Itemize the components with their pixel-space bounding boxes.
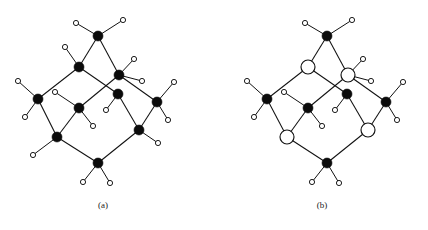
lattice-node-filled (114, 70, 124, 80)
leaf-node-open-circle (107, 180, 112, 185)
lattice-node-filled (93, 31, 103, 41)
leaf-node-open-circle (15, 78, 20, 83)
lattice-edge (98, 36, 119, 75)
panel-a-caption: (a) (83, 200, 123, 210)
lattice-node-filled (33, 94, 43, 104)
figure-root: (a) (b) (0, 0, 428, 230)
lattice-node-filled (74, 103, 84, 113)
leaf-node-open-circle (281, 89, 286, 94)
leaf-node-open-circle (319, 123, 324, 128)
lattice-edge (119, 75, 157, 102)
leaf-node-open-circle (30, 152, 35, 157)
lattice-node-filled (152, 97, 162, 107)
node-layer-b (262, 31, 391, 168)
leaf-node-open-circle (171, 79, 176, 84)
leaf-node-open-circle (90, 123, 95, 128)
leaf-node-open-circle (62, 44, 67, 49)
lattice-edge (79, 75, 119, 108)
lattice-node-filled (342, 89, 352, 99)
lattice-edge (57, 137, 98, 163)
leaf-node-open-circle (52, 89, 57, 94)
lattice-edge (57, 108, 79, 137)
leaf-node-open-circle (302, 20, 307, 25)
leaf-node-open-circle (120, 17, 125, 22)
leaf-node-open-circle (336, 180, 341, 185)
lattice-edge (79, 36, 98, 67)
leaf-node-open-circle (131, 56, 136, 61)
leaf-node-open-circle (251, 114, 256, 119)
panel-b-caption: (b) (302, 200, 342, 210)
leaf-node-open-circle (165, 117, 170, 122)
lattice-node-filled (381, 97, 391, 107)
leaf-node-open-circle (244, 78, 249, 83)
leaf-node-open-circle (349, 17, 354, 22)
lattice-node-filled (52, 132, 62, 142)
lattice-edge (38, 99, 57, 137)
leaf-node-open-circle (309, 179, 314, 184)
lattice-figure-svg (0, 0, 428, 230)
lattice-node-open (341, 68, 355, 82)
lattice-edge (327, 130, 368, 163)
leaf-node-open-circle (368, 78, 373, 83)
lattice-edge (308, 75, 348, 108)
panel-a-graph (15, 17, 176, 185)
lattice-node-filled (262, 94, 272, 104)
leaf-node-open-circle (155, 140, 160, 145)
leaf-node-open-circle (400, 79, 405, 84)
lattice-edge (98, 130, 139, 163)
lattice-node-filled (134, 125, 144, 135)
lattice-node-open (280, 130, 294, 144)
lattice-node-filled (322, 158, 332, 168)
lattice-node-filled (113, 89, 123, 99)
lattice-node-open (361, 123, 375, 137)
leaf-node-open-circle (22, 114, 27, 119)
lattice-node-open (301, 60, 315, 74)
lattice-node-filled (303, 103, 313, 113)
node-layer-a (33, 31, 162, 168)
leaf-node-open-circle (394, 117, 399, 122)
lattice-node-filled (322, 31, 332, 41)
lattice-edge (118, 94, 139, 130)
leaf-node-open-circle (73, 20, 78, 25)
lattice-node-filled (74, 62, 84, 72)
edge-layer-a (38, 36, 157, 163)
leaf-node-open-circle (332, 107, 337, 112)
leaf-node-open-circle (139, 78, 144, 83)
leaf-node-open-circle (360, 56, 365, 61)
panel-b-graph (244, 17, 405, 185)
leaf-node-open-circle (80, 179, 85, 184)
lattice-node-filled (93, 158, 103, 168)
leaf-node-open-circle (103, 107, 108, 112)
